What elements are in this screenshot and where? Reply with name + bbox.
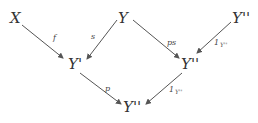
label-identity-bottom-one: 1 bbox=[169, 85, 174, 94]
label-ps: ps bbox=[167, 38, 176, 47]
label-identity-top: 1Y'' bbox=[214, 38, 228, 48]
node-y: Y bbox=[118, 9, 130, 27]
node-y-double-prime-top: Y'' bbox=[232, 9, 250, 27]
node-x: X bbox=[9, 9, 22, 27]
label-identity-top-sub: Y'' bbox=[220, 41, 228, 48]
node-y-double-prime-bottom: Y'' bbox=[123, 98, 141, 116]
label-identity-bottom-sub: Y'' bbox=[175, 88, 183, 95]
arrow-p bbox=[80, 73, 121, 104]
node-y-prime: Y' bbox=[68, 55, 82, 73]
label-f: f bbox=[52, 33, 58, 42]
commutative-diagram: X Y Y'' Y' Y'' Y'' f s ps 1Y'' p 1Y'' bbox=[0, 0, 258, 123]
label-identity-bottom: 1Y'' bbox=[169, 85, 183, 95]
label-identity-top-one: 1 bbox=[214, 38, 219, 47]
arrow-f bbox=[22, 25, 63, 58]
label-s: s bbox=[91, 32, 95, 41]
label-p: p bbox=[105, 84, 110, 93]
node-y-double-prime-mid: Y'' bbox=[181, 55, 199, 73]
